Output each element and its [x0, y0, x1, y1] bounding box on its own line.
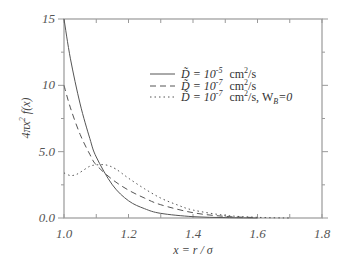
- x-tick-label: 1.4: [185, 226, 202, 241]
- y-tick-label: 15: [42, 11, 56, 26]
- legend-entry: D̃ = 10-7 cm2/s, WB=0: [180, 89, 292, 106]
- x-axis-title: x = r / σ: [172, 243, 213, 257]
- axis-ticks: 1.01.21.41.61.80.05.01015: [39, 11, 331, 241]
- chart: 1.01.21.41.61.80.05.01015 D̃ = 10-5 cm2/…: [0, 0, 343, 266]
- data-series: [64, 19, 290, 218]
- y-tick-label: 0.0: [39, 210, 56, 225]
- x-tick-label: 1.0: [56, 226, 73, 241]
- y-tick-label: 5.0: [39, 144, 56, 159]
- series-line-dotted: [64, 165, 290, 218]
- y-tick-label: 10: [42, 77, 56, 92]
- y-axis-title: 4πx2 f(x): [18, 98, 33, 139]
- legend: D̃ = 10-5 cm2/sD̃ = 10-7 cm2/sD̃ = 10-7 …: [150, 66, 292, 106]
- x-tick-label: 1.2: [120, 226, 137, 241]
- x-tick-label: 1.8: [314, 226, 331, 241]
- series-line-solid: [64, 19, 258, 218]
- x-tick-label: 1.6: [249, 226, 266, 241]
- plot-frame: [64, 19, 322, 218]
